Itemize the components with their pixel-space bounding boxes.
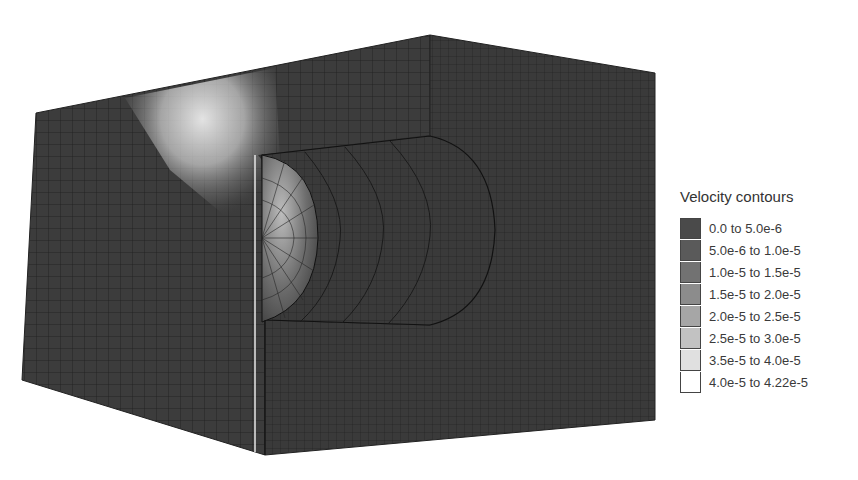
- legend-item: 3.5e-5 to 4.0e-5: [680, 349, 858, 371]
- legend-title: Velocity contours: [680, 188, 858, 205]
- legend-label: 2.5e-5 to 3.0e-5: [709, 331, 801, 346]
- legend-label: 5.0e-6 to 1.0e-5: [709, 243, 801, 258]
- legend-item: 4.0e-5 to 4.22e-5: [680, 371, 858, 393]
- legend-label: 1.5e-5 to 2.0e-5: [709, 287, 801, 302]
- legend-swatch: [680, 350, 701, 371]
- legend-swatch: [680, 240, 701, 261]
- legend-swatch: [680, 218, 701, 239]
- legend-items: 0.0 to 5.0e-6 5.0e-6 to 1.0e-5 1.0e-5 to…: [680, 217, 858, 393]
- legend-swatch: [680, 372, 701, 393]
- legend-swatch: [680, 306, 701, 327]
- legend-label: 4.0e-5 to 4.22e-5: [709, 375, 808, 390]
- legend-item: 1.5e-5 to 2.0e-5: [680, 283, 858, 305]
- legend-swatch: [680, 328, 701, 349]
- legend-item: 1.0e-5 to 1.5e-5: [680, 261, 858, 283]
- legend-label: 1.0e-5 to 1.5e-5: [709, 265, 801, 280]
- legend-label: 3.5e-5 to 4.0e-5: [709, 353, 801, 368]
- legend-swatch: [680, 262, 701, 283]
- legend-item: 5.0e-6 to 1.0e-5: [680, 239, 858, 261]
- legend-label: 0.0 to 5.0e-6: [709, 221, 782, 236]
- legend: Velocity contours 0.0 to 5.0e-6 5.0e-6 t…: [680, 188, 858, 393]
- legend-item: 2.5e-5 to 3.0e-5: [680, 327, 858, 349]
- legend-swatch: [680, 284, 701, 305]
- legend-label: 2.0e-5 to 2.5e-5: [709, 309, 801, 324]
- legend-item: 0.0 to 5.0e-6: [680, 217, 858, 239]
- legend-item: 2.0e-5 to 2.5e-5: [680, 305, 858, 327]
